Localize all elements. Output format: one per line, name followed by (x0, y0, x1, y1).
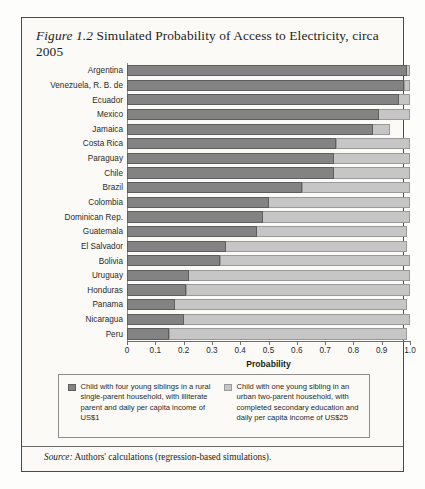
bar-row: El Salvador (28, 239, 400, 254)
bar-segment-dark (127, 314, 184, 325)
bar-segment-light (183, 314, 410, 325)
x-axis-title: Probability (127, 359, 410, 369)
figure-page: Figure 1.2 Simulated Probability of Acce… (0, 0, 425, 489)
bar-segment-light (333, 153, 410, 164)
bar-segment-light (268, 197, 410, 208)
stacked-bar (127, 124, 410, 135)
x-axis-tick-label: 0.6 (291, 346, 302, 355)
stacked-bar (127, 138, 410, 149)
y-axis-label: Venezuela, R. B. de (50, 80, 123, 89)
stacked-bar (127, 109, 410, 120)
x-axis-tick (297, 341, 298, 345)
bar-segment-light (262, 211, 410, 222)
x-axis-tick-label: 0.7 (319, 346, 330, 355)
bar-segment-dark (127, 182, 302, 193)
bar-segment-dark (127, 211, 263, 222)
bar-segment-dark (127, 153, 334, 164)
bar-row: Panama (28, 297, 400, 312)
bar-segment-light (398, 94, 410, 105)
bar-segment-dark (127, 167, 334, 178)
bar-row: Venezuela, R. B. de (28, 78, 400, 93)
bar-row: Guatemala (28, 224, 400, 239)
y-axis-label: Ecuador (92, 95, 123, 104)
stacked-bar (127, 211, 410, 222)
stacked-bar (127, 226, 410, 237)
bar-row: Peru (28, 326, 400, 341)
stacked-bar (127, 328, 410, 339)
bar-row: Ecuador (28, 92, 400, 107)
bar-segment-dark (127, 255, 220, 266)
stacked-bar (127, 299, 410, 310)
stacked-bar (127, 314, 410, 325)
x-axis-tick-label: 0 (125, 346, 130, 355)
bar-row: Honduras (28, 282, 400, 297)
y-axis-label: Costa Rica (83, 139, 123, 148)
x-axis-tick (184, 341, 185, 345)
bar-segment-dark (127, 328, 169, 339)
legend-label-light: Child with one young sibling in an urban… (237, 382, 369, 424)
y-axis-label: Dominican Rep. (64, 212, 123, 221)
x-axis-tick (325, 341, 326, 345)
y-axis-label: Paraguay (88, 154, 123, 163)
stacked-bar (127, 80, 410, 91)
stacked-bar (127, 182, 410, 193)
bar-row: Mexico (28, 107, 400, 122)
stacked-bar (127, 241, 410, 252)
x-axis-tick-label: 0.8 (348, 346, 359, 355)
y-axis-label: Mexico (97, 110, 123, 119)
bar-row: Costa Rica (28, 136, 400, 151)
stacked-bar (127, 167, 410, 178)
x-axis-tick-label: 1.0 (404, 346, 415, 355)
bar-segment-light (372, 124, 390, 135)
x-axis-tick (382, 341, 383, 345)
y-axis-label: Peru (106, 329, 123, 338)
x-axis-tick-label: 0.2 (178, 346, 189, 355)
y-axis-label: Nicaragua (86, 315, 124, 324)
figure-box: Figure 1.2 Simulated Probability of Acce… (21, 17, 404, 472)
bar-segment-light (404, 80, 410, 91)
x-axis-tick (155, 341, 156, 345)
bar-segment-dark (127, 299, 175, 310)
bar-segment-dark (127, 138, 336, 149)
bar-row: Brazil (28, 180, 400, 195)
bar-row: Jamaica (28, 122, 400, 137)
bar-row: Paraguay (28, 151, 400, 166)
bar-row: Colombia (28, 195, 400, 210)
bar-segment-dark (127, 270, 189, 281)
y-axis-label: Guatemala (83, 227, 123, 236)
bar-row: Uruguay (28, 268, 400, 283)
y-axis-label: El Salvador (81, 241, 123, 250)
source-note: Source: Authors' calculations (regressio… (44, 452, 271, 462)
stacked-bar (127, 197, 410, 208)
bar-segment-light (169, 328, 408, 339)
bar-segment-dark (127, 109, 379, 120)
y-axis-label: Bolivia (99, 256, 123, 265)
bar-row: Chile (28, 165, 400, 180)
stacked-bar (127, 255, 410, 266)
bar-row: Dominican Rep. (28, 209, 400, 224)
bar-segment-dark (127, 124, 373, 135)
legend-item-dark: Child with four young siblings in a rura… (68, 382, 218, 424)
bar-rows: ArgentinaVenezuela, R. B. deEcuadorMexic… (28, 63, 400, 341)
bar-segment-light (220, 255, 410, 266)
bar-segment-light (302, 182, 410, 193)
source-label: Source: (44, 452, 73, 462)
y-axis-label: Argentina (88, 66, 123, 75)
bar-segment-dark (127, 80, 404, 91)
legend-item-light: Child with one young sibling in an urban… (224, 382, 368, 424)
x-axis-tick-label: 0.4 (234, 346, 245, 355)
y-axis-label: Jamaica (92, 124, 123, 133)
y-axis-label: Honduras (87, 285, 123, 294)
x-axis-tick (127, 341, 128, 345)
bar-segment-light (225, 241, 407, 252)
stacked-bar (127, 65, 410, 76)
x-axis-tick-label: 0.1 (150, 346, 161, 355)
legend-swatch-dark-icon (68, 384, 76, 392)
bar-segment-light (256, 226, 407, 237)
stacked-bar (127, 94, 410, 105)
y-axis-label: Panama (92, 300, 123, 309)
bar-row: Argentina (28, 63, 400, 78)
legend: Child with four young siblings in a rura… (58, 374, 370, 438)
y-axis-label: Colombia (88, 197, 123, 206)
x-axis-tick (269, 341, 270, 345)
